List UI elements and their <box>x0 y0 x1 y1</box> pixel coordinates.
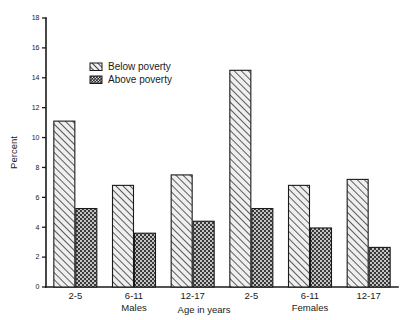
y-tick-label: 2 <box>36 253 40 260</box>
bar <box>311 228 332 287</box>
y-axis-title: Percent <box>8 136 19 169</box>
category-labels: 2-56-1112-172-56-1112-17 <box>68 290 380 301</box>
bar <box>54 121 75 287</box>
group-label: Males <box>121 302 147 313</box>
y-tick-label: 18 <box>32 14 40 21</box>
bar <box>369 247 390 287</box>
group-label: Females <box>292 302 329 313</box>
bar <box>289 185 310 287</box>
x-tick-label: 6-11 <box>125 290 143 301</box>
bar <box>347 179 368 287</box>
legend-label: Below poverty <box>108 61 171 72</box>
bar <box>76 209 97 287</box>
legend-label: Above poverty <box>108 74 172 85</box>
x-tick-label: 12-17 <box>357 290 381 301</box>
y-tick-label: 0 <box>36 283 40 290</box>
legend-swatch <box>90 76 102 84</box>
chart-container: 024681012141618 2-56-1112-172-56-1112-17… <box>0 0 409 320</box>
bar <box>252 209 273 287</box>
chart-legend: Below povertyAbove poverty <box>90 61 172 85</box>
x-tick-label: 12-17 <box>181 290 205 301</box>
bar <box>171 175 192 287</box>
bar <box>230 70 251 287</box>
y-tick-label: 6 <box>36 194 40 201</box>
y-axis: 024681012141618 <box>32 14 46 290</box>
bar-chart: 024681012141618 2-56-1112-172-56-1112-17… <box>0 0 409 320</box>
y-tick-label: 10 <box>32 134 40 141</box>
y-tick-label: 8 <box>36 164 40 171</box>
bars-layer <box>54 70 390 287</box>
bar <box>113 185 134 287</box>
y-tick-label: 12 <box>32 104 40 111</box>
x-tick-label: 2-5 <box>244 290 258 301</box>
legend-swatch <box>90 63 102 71</box>
bar <box>193 221 214 287</box>
y-tick-label: 4 <box>36 224 40 231</box>
x-tick-label: 2-5 <box>68 290 82 301</box>
y-tick-label: 16 <box>32 44 40 51</box>
bar <box>135 233 156 287</box>
x-axis-title: Age in years <box>178 304 231 315</box>
y-tick-label: 14 <box>32 74 40 81</box>
x-tick-label: 6-11 <box>301 290 319 301</box>
